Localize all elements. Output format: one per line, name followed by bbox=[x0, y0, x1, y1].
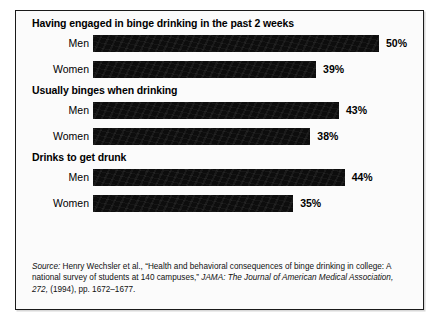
source-prefix: Source: bbox=[32, 262, 60, 271]
bar bbox=[93, 128, 310, 145]
source-authors: Henry Wechsler et al., bbox=[60, 262, 145, 271]
bar-row-label: Women bbox=[16, 192, 89, 215]
bar-value-label: 39% bbox=[323, 61, 344, 78]
bar-value-label: 35% bbox=[300, 195, 321, 212]
bar bbox=[93, 102, 339, 119]
bar-row: Women 39% bbox=[16, 58, 423, 81]
bar-row: Women 38% bbox=[16, 125, 423, 148]
bar-value-label: 43% bbox=[346, 102, 367, 119]
source-details: (1994), pp. 1672–1677. bbox=[48, 285, 135, 294]
bar-chart: Having engaged in binge drinking in the … bbox=[16, 17, 423, 218]
group-title: Having engaged in binge drinking in the … bbox=[16, 17, 423, 29]
bar-value-label: 50% bbox=[386, 35, 407, 52]
bar-value-label: 44% bbox=[352, 169, 373, 186]
chart-group: Drinks to get drunk Men 44% Women 35% bbox=[16, 151, 423, 215]
bar-row: Men 43% bbox=[16, 99, 423, 122]
bar-row: Men 50% bbox=[16, 32, 423, 55]
chart-group: Having engaged in binge drinking in the … bbox=[16, 17, 423, 81]
source-citation: Source: Henry Wechsler et al., “Health a… bbox=[32, 261, 409, 295]
bar-track: 44% bbox=[93, 166, 423, 189]
bar bbox=[93, 195, 293, 212]
group-title: Usually binges when drinking bbox=[16, 84, 423, 96]
bar-row: Men 44% bbox=[16, 166, 423, 189]
bar-track: 50% bbox=[93, 32, 423, 55]
chart-group: Usually binges when drinking Men 43% Wom… bbox=[16, 84, 423, 148]
bar-track: 38% bbox=[93, 125, 423, 148]
bar-row-label: Men bbox=[16, 99, 89, 122]
bar-row-label: Women bbox=[16, 125, 89, 148]
bar-track: 43% bbox=[93, 99, 423, 122]
bar-track: 35% bbox=[93, 192, 423, 215]
bar bbox=[93, 61, 316, 78]
bar-row-label: Men bbox=[16, 32, 89, 55]
bar bbox=[93, 35, 379, 52]
bar-row-label: Men bbox=[16, 166, 89, 189]
bar-value-label: 38% bbox=[317, 128, 338, 145]
group-title: Drinks to get drunk bbox=[16, 151, 423, 163]
bar-track: 39% bbox=[93, 58, 423, 81]
figure-panel: Having engaged in binge drinking in the … bbox=[15, 10, 424, 310]
bar-row: Women 35% bbox=[16, 192, 423, 215]
bar bbox=[93, 169, 345, 186]
bar-row-label: Women bbox=[16, 58, 89, 81]
